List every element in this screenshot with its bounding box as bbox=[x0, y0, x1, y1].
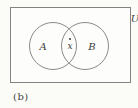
figure-caption: (b) bbox=[13, 91, 29, 103]
set-a-label: A bbox=[39, 42, 46, 52]
venn-diagram-figure: { "figure": { "universal_set_label": "U"… bbox=[0, 0, 138, 108]
universal-set-label: U bbox=[131, 14, 138, 24]
set-b-label: B bbox=[88, 42, 95, 52]
intersection-point-label: x bbox=[67, 42, 72, 51]
